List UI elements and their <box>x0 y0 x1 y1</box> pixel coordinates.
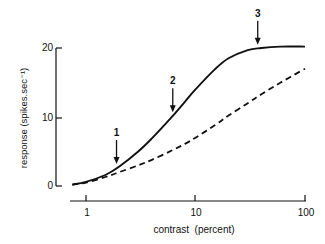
x-axis-label: contrast (percent) <box>153 224 234 235</box>
arrow-annotation-2: 2 <box>170 75 176 112</box>
contrast-response-chart: 20 10 0 response (spikes.sec⁻¹) 1 10 100… <box>0 0 325 244</box>
x-tick-10: 10 <box>190 207 202 218</box>
arrow-annotation-1: 1 <box>114 127 120 164</box>
plot-area: 123 <box>72 8 305 185</box>
x-axis: 1 10 100 contrast (percent) <box>70 195 315 235</box>
arrow-label-1: 1 <box>114 127 120 138</box>
arrow-down-icon <box>114 157 120 164</box>
y-axis: 20 10 0 response (spikes.sec⁻¹) <box>18 42 62 191</box>
series-solid-line <box>72 47 305 185</box>
x-tick-100: 100 <box>298 207 315 218</box>
arrow-down-icon <box>255 38 261 45</box>
series-dashed-line <box>72 69 305 185</box>
y-tick-20: 20 <box>42 42 54 53</box>
arrow-label-2: 2 <box>170 75 176 86</box>
arrow-annotation-3: 3 <box>255 8 261 45</box>
arrow-down-icon <box>170 105 176 112</box>
arrow-label-3: 3 <box>255 8 261 19</box>
y-tick-10: 10 <box>42 112 54 123</box>
y-axis-label: response (spikes.sec⁻¹) <box>18 68 29 169</box>
y-tick-0: 0 <box>47 180 53 191</box>
x-tick-1: 1 <box>84 207 90 218</box>
